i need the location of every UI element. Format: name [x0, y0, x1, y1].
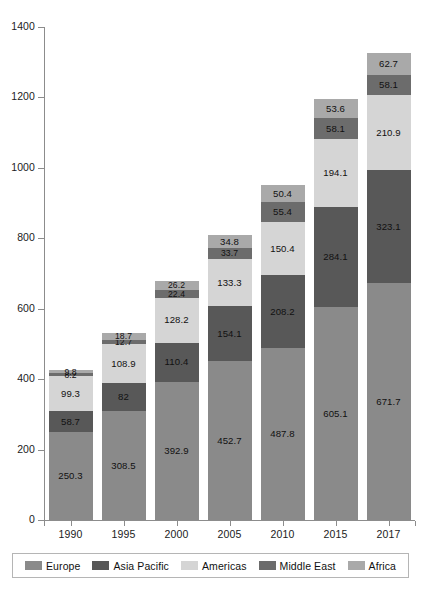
legend-label: Europe — [46, 560, 80, 572]
bar-segment[interactable]: 53.6 — [314, 99, 358, 118]
legend-label: Americas — [202, 560, 247, 572]
y-axis-tick-label: 200 — [17, 443, 35, 455]
y-axis-tick-label: 600 — [17, 302, 35, 314]
bar-segment[interactable]: 250.3 — [49, 432, 93, 520]
bar-segment[interactable]: 150.4 — [261, 222, 305, 275]
bar-segment-value-label: 55.4 — [273, 207, 292, 217]
bar-segment[interactable]: 9.8 — [49, 370, 93, 373]
x-axis-tick-mark — [177, 521, 178, 526]
legend-label: Africa — [369, 560, 396, 572]
bar-segment-value-label: 33.7 — [221, 249, 238, 258]
bar-segment[interactable]: 605.1 — [314, 307, 358, 520]
bar-segment-value-label: 62.7 — [379, 59, 398, 69]
bar-segment[interactable]: 154.1 — [208, 306, 252, 360]
legend-item[interactable]: Asia Pacific — [92, 560, 168, 572]
bar-segment-value-label: 210.9 — [376, 128, 401, 138]
x-axis-tick-mark — [283, 521, 284, 526]
x-axis-tick-label: 2010 — [256, 528, 309, 540]
bar-segment[interactable]: 208.2 — [261, 275, 305, 348]
bar-segment-value-label: 605.1 — [323, 409, 348, 419]
bar-segment[interactable]: 671.7 — [367, 283, 411, 520]
legend-item[interactable]: Africa — [348, 560, 396, 572]
bar-segment-value-label: 133.3 — [217, 278, 242, 288]
bar-segment[interactable]: 82 — [102, 383, 146, 412]
x-axis-tick-label: 2017 — [362, 528, 415, 540]
bar-segment[interactable]: 108.9 — [102, 344, 146, 382]
y-axis-tick-label: 1200 — [11, 90, 35, 102]
x-axis-tick-mark — [230, 521, 231, 526]
x-axis-tick-label: 2000 — [150, 528, 203, 540]
legend-item[interactable]: Middle East — [259, 560, 336, 572]
bar-group[interactable]: 671.7323.1210.958.162.7 — [367, 53, 411, 520]
legend-swatch — [259, 561, 276, 570]
stacked-bar-chart: 1400120010008006004002000 250.358.799.38… — [0, 0, 423, 589]
legend-item[interactable]: Americas — [181, 560, 247, 572]
bar-group[interactable]: 605.1284.1194.158.153.6 — [314, 99, 358, 520]
bar-segment[interactable]: 50.4 — [261, 185, 305, 203]
bar-segment[interactable]: 34.8 — [208, 235, 252, 247]
bar-segment-value-label: 50.4 — [273, 189, 292, 199]
bar-segment-value-label: 323.1 — [376, 222, 401, 232]
bar-segment-value-label: 34.8 — [220, 237, 239, 247]
legend-label: Middle East — [280, 560, 336, 572]
bar-segment[interactable]: 58.7 — [49, 411, 93, 432]
x-axis-tick-mark — [44, 521, 45, 526]
bar-segment[interactable]: 33.7 — [208, 248, 252, 260]
bar-segment-value-label: 58.7 — [61, 417, 80, 427]
legend-item[interactable]: Europe — [25, 560, 80, 572]
bar-group[interactable]: 250.358.799.38.29.8 — [49, 370, 93, 520]
bar-segment-value-label: 250.3 — [58, 471, 83, 481]
x-axis-tick-mark — [336, 521, 337, 526]
bar-segment[interactable]: 62.7 — [367, 53, 411, 75]
bar-segment[interactable]: 26.2 — [155, 281, 199, 290]
bar-segment[interactable]: 210.9 — [367, 95, 411, 169]
bar-segment-value-label: 9.8 — [64, 367, 76, 376]
bar-group[interactable]: 392.9110.4128.222.426.2 — [155, 281, 199, 520]
x-axis-tick-mark — [124, 521, 125, 526]
bar-segment-value-label: 194.1 — [323, 168, 348, 178]
bar-segment-value-label: 208.2 — [270, 307, 295, 317]
bar-segment[interactable]: 194.1 — [314, 139, 358, 207]
bar-plot-area: 250.358.799.38.29.8308.582108.912.718.73… — [44, 27, 415, 520]
bar-segment[interactable]: 323.1 — [367, 170, 411, 284]
bar-segment-value-label: 128.2 — [164, 315, 189, 325]
bar-segment-value-label: 452.7 — [217, 436, 242, 446]
bar-segment[interactable]: 110.4 — [155, 343, 199, 382]
bar-segment-value-label: 671.7 — [376, 397, 401, 407]
bar-segment[interactable]: 58.1 — [314, 118, 358, 138]
bar-segment[interactable]: 55.4 — [261, 202, 305, 222]
bar-segment[interactable]: 452.7 — [208, 361, 252, 520]
bar-group[interactable]: 308.582108.912.718.7 — [102, 333, 146, 520]
bar-segment-value-label: 284.1 — [323, 252, 348, 262]
x-axis-tick-label: 1995 — [97, 528, 150, 540]
bar-segment-value-label: 58.1 — [326, 124, 345, 134]
y-axis-tick-label: 0 — [29, 513, 35, 525]
x-axis-tick-label: 2015 — [309, 528, 362, 540]
bar-segment[interactable]: 58.1 — [367, 75, 411, 95]
x-axis-tick-mark — [71, 521, 72, 526]
y-axis-tick-label: 400 — [17, 372, 35, 384]
bar-segment[interactable]: 99.3 — [49, 376, 93, 411]
bar-segment-value-label: 150.4 — [270, 244, 295, 254]
bar-segment-value-label: 82 — [118, 392, 129, 402]
legend-swatch — [25, 561, 42, 570]
bar-segment[interactable]: 284.1 — [314, 207, 358, 307]
bar-segment[interactable]: 133.3 — [208, 259, 252, 306]
bar-segment[interactable]: 308.5 — [102, 411, 146, 520]
x-axis-tick-label: 1990 — [44, 528, 97, 540]
y-axis-tick-label: 1400 — [11, 20, 35, 32]
bar-group[interactable]: 452.7154.1133.333.734.8 — [208, 235, 252, 520]
bar-group[interactable]: 487.8208.2150.455.450.4 — [261, 185, 305, 520]
bar-segment[interactable]: 487.8 — [261, 348, 305, 520]
bar-segment-value-label: 22.4 — [168, 289, 185, 298]
bar-segment-value-label: 392.9 — [164, 446, 189, 456]
bar-segment-value-label: 26.2 — [168, 281, 185, 290]
bar-segment-value-label: 58.1 — [379, 80, 398, 90]
bar-segment[interactable]: 22.4 — [155, 290, 199, 298]
bar-segment[interactable]: 128.2 — [155, 298, 199, 343]
bar-segment[interactable]: 392.9 — [155, 382, 199, 520]
bar-segment[interactable]: 18.7 — [102, 333, 146, 340]
bar-segment-value-label: 154.1 — [217, 329, 242, 339]
x-axis-tick-mark — [415, 521, 416, 526]
legend-swatch — [348, 561, 365, 570]
